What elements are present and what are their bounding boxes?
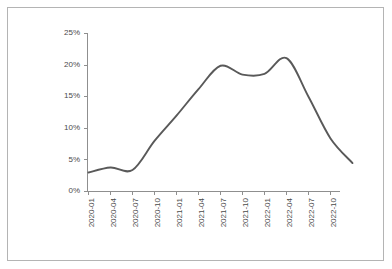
y-tick-label-2: 10% [64,123,80,132]
x-tick-label-7: 2021-10 [241,197,250,227]
x-tick-label-2: 2020-07 [131,197,140,227]
line-chart-plot: 0% 5% 10% 15% 20% 25% [0,0,392,269]
x-tick-label-8: 2022-01 [263,197,272,227]
y-tick-label-1: 5% [68,155,80,164]
x-tick-label-3: 2020-10 [153,197,162,227]
y-tick-label-0: 0% [68,186,80,195]
y-tick-label-5: 25% [64,28,80,37]
x-axis-tick-marks [89,192,331,196]
x-tick-label-4: 2021-01 [175,197,184,227]
x-tick-label-10: 2022-07 [307,197,316,227]
x-tick-label-0: 2020-01 [87,197,96,227]
data-series-line [89,58,353,173]
y-tick-label-3: 15% [64,91,80,100]
x-tick-label-5: 2021-04 [197,197,206,227]
y-axis-tick-marks [84,34,88,192]
x-tick-label-6: 2021-07 [219,197,228,227]
x-tick-label-11: 2022-10 [329,197,338,227]
y-axis-tick-labels: 0% 5% 10% 15% 20% 25% [64,28,80,195]
x-tick-label-9: 2022-04 [285,197,294,227]
y-tick-label-4: 20% [64,60,80,69]
x-tick-label-1: 2020-04 [109,197,118,227]
x-axis-tick-labels: 2020-01 2020-04 2020-07 2020-10 2021-01 … [87,197,338,227]
chart-container: 0% 5% 10% 15% 20% 25% [0,0,392,269]
